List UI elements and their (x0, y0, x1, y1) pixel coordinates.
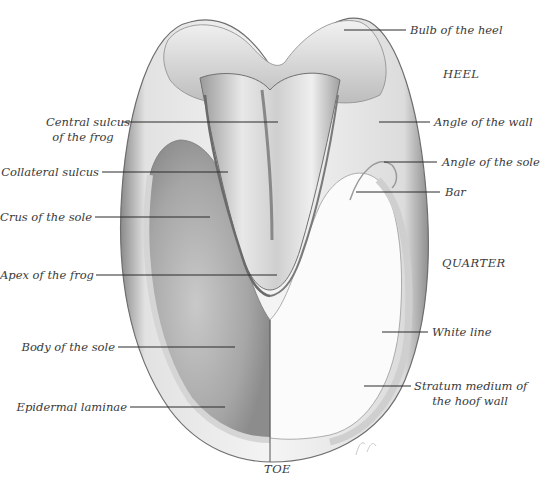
label-angle-of-wall: Angle of the wall (434, 115, 533, 130)
label-central-sulcus: Central sulcus of the frog (46, 115, 120, 145)
region-toe: TOE (264, 462, 291, 476)
label-bulb-of-heel: Bulb of the heel (410, 23, 503, 38)
label-body-of-sole: Body of the sole (0, 340, 115, 355)
label-white-line: White line (432, 325, 492, 340)
label-text: the hoof wall (414, 394, 526, 409)
label-angle-of-sole: Angle of the sole (442, 155, 540, 170)
region-quarter: QUARTER (442, 256, 506, 270)
label-epidermal-laminae: Epidermal laminae (0, 400, 127, 415)
label-text: of the frog (46, 130, 120, 145)
label-text: Central sulcus (46, 115, 120, 130)
label-stratum-medium: Stratum medium of the hoof wall (414, 379, 526, 409)
artist-signature (356, 443, 376, 455)
label-collateral-sulcus: Collateral sulcus (0, 165, 99, 180)
label-apex-of-frog: Apex of the frog (0, 268, 93, 283)
label-crus-of-sole: Crus of the sole (0, 210, 92, 225)
label-bar: Bar (445, 185, 466, 200)
label-text: Stratum medium of (414, 379, 526, 394)
region-heel: HEEL (443, 67, 479, 81)
